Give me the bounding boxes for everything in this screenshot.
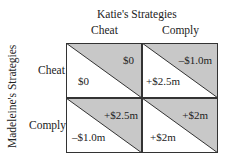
katie-payoff: +$2.5m xyxy=(104,109,138,121)
madeleine-payoff: –$1.0m xyxy=(72,131,105,143)
row-header-comply: Comply xyxy=(29,119,66,131)
column-header-comply: Comply xyxy=(162,24,199,36)
payoff-matrix: $0 $0 –$1.0m +$2.5m +$2.5m –$1.0m +$2m +… xyxy=(66,43,218,153)
madeleine-payoff: +$2m xyxy=(150,131,176,143)
diagonal-split-shape xyxy=(142,98,218,153)
katie-payoff: +$2m xyxy=(182,109,208,121)
row-header-cheat: Cheat xyxy=(38,64,65,76)
row-player-title: Madeleine's Strategies xyxy=(6,45,18,148)
madeleine-payoff: $0 xyxy=(78,75,89,87)
madeleine-payoff: +$2.5m xyxy=(146,75,180,87)
katie-payoff: –$1.0m xyxy=(179,54,212,66)
diagonal-split-shape xyxy=(142,43,218,98)
cell-cheat-comply: –$1.0m +$2.5m xyxy=(142,43,218,98)
cell-cheat-cheat: $0 $0 xyxy=(66,43,142,98)
katie-payoff: $0 xyxy=(123,54,134,66)
diagonal-split-shape xyxy=(66,98,142,153)
column-header-cheat: Cheat xyxy=(91,24,118,36)
cell-comply-cheat: +$2.5m –$1.0m xyxy=(66,98,142,153)
cell-comply-comply: +$2m +$2m xyxy=(142,98,218,153)
diagonal-split-shape xyxy=(66,43,142,98)
column-player-title: Katie's Strategies xyxy=(97,8,177,20)
